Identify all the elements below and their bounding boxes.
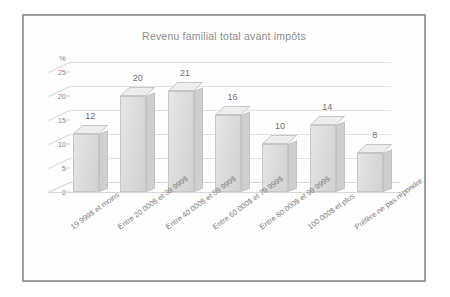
bar-value-label: 20 — [118, 73, 158, 83]
gridline — [70, 62, 390, 63]
bar — [120, 96, 146, 192]
bar-front-face — [357, 153, 383, 192]
bar-side-face — [336, 121, 345, 192]
y-axis-tick-label: 25 — [58, 67, 66, 76]
bar-side-face — [241, 111, 250, 191]
bar-value-label: 21 — [165, 68, 205, 78]
bar-side-face — [146, 92, 155, 192]
plot-area: % 0510152025 1220211610148 19 999$ et mo… — [48, 52, 400, 220]
y-axis-tick-label: 10 — [58, 139, 66, 148]
y-axis-unit-label: % — [59, 54, 66, 63]
bar-value-label: 14 — [307, 102, 347, 112]
bar-front-face — [73, 134, 99, 192]
bar — [357, 153, 383, 192]
bar-value-label: 12 — [70, 111, 110, 121]
chart-frame: Revenu familial total avant impôts % 051… — [22, 14, 426, 282]
bar-side-face — [383, 150, 392, 192]
bar-value-label: 16 — [213, 92, 253, 102]
bar-side-face — [194, 87, 203, 192]
bar-side-face — [288, 140, 297, 192]
bar — [73, 134, 99, 192]
bar-front-face — [120, 96, 146, 192]
y-axis-tick-label: 15 — [58, 115, 66, 124]
bar-value-label: 8 — [355, 130, 395, 140]
y-axis-tick-label: 20 — [58, 91, 66, 100]
bar-value-label: 10 — [260, 121, 300, 131]
chart-title: Revenu familial total avant impôts — [24, 30, 424, 42]
bar-side-face — [99, 131, 108, 192]
gridline — [70, 86, 390, 87]
chart-screenshot: Revenu familial total avant impôts % 051… — [0, 0, 450, 297]
